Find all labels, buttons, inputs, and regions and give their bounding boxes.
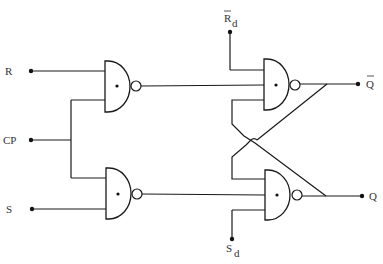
nand-gate-g1 [105, 61, 141, 112]
output-q-bar: Q [300, 76, 374, 90]
input-label-s: S [6, 203, 12, 215]
input-label-cp: CP [3, 134, 16, 146]
input-label-r: R [5, 65, 13, 77]
nand-gate-g3 [106, 168, 142, 219]
wire-g3-to-g4 [142, 194, 265, 195]
sd-input: S d [226, 210, 265, 259]
rs-flip-flop-diagram: R CP S R d S d [0, 0, 383, 264]
q-bar-label: Q [366, 78, 374, 90]
sd-label-main: S [226, 242, 232, 254]
rd-label-sub: d [232, 17, 238, 29]
output-q: Q [302, 190, 377, 202]
rd-label-main: R [224, 12, 232, 24]
wire-g1-to-g2 [141, 85, 264, 86]
sd-label-sub: d [234, 247, 240, 259]
nand-gate-g2 [264, 59, 300, 110]
nand-gate-g4 [265, 170, 302, 220]
q-label: Q [369, 190, 377, 202]
rd-input: R d [224, 11, 264, 70]
input-wires [31, 71, 106, 209]
